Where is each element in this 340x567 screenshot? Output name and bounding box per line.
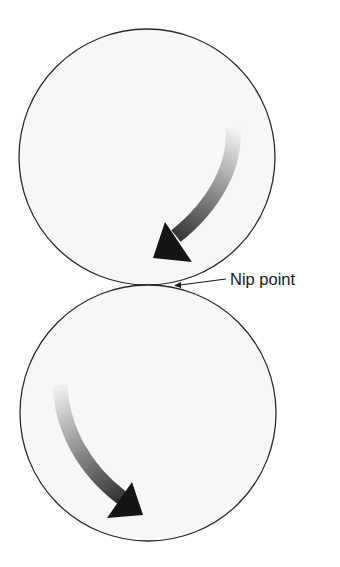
nip-point-label: Nip point — [230, 270, 295, 289]
